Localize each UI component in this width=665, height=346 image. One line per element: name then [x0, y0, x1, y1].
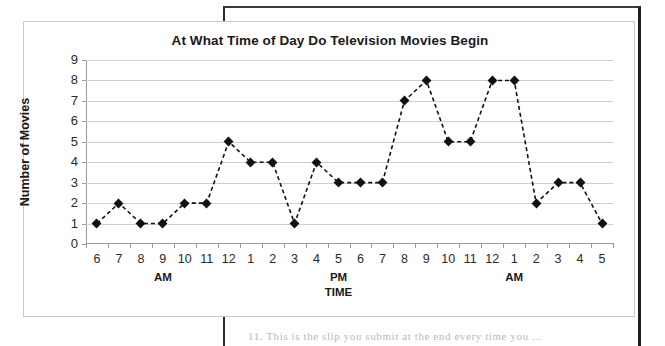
y-axis-tick-label: 5	[58, 135, 78, 148]
x-axis-title: TIME	[309, 286, 369, 298]
data-point-marker	[421, 75, 431, 85]
y-axis-tick-label: 1	[58, 217, 78, 230]
series-markers	[86, 60, 613, 244]
y-axis-tick-label: 0	[58, 237, 78, 250]
y-axis-tick-label: 6	[58, 114, 78, 127]
data-point-marker	[224, 137, 234, 147]
data-point-marker	[202, 198, 212, 208]
meridiem-label: AM	[494, 271, 534, 283]
data-point-marker	[356, 178, 366, 188]
data-point-marker	[487, 75, 497, 85]
y-axis-tick-label: 7	[58, 94, 78, 107]
data-point-marker	[92, 219, 102, 229]
data-point-marker	[531, 198, 541, 208]
data-point-marker	[597, 219, 607, 229]
y-axis-tick-label: 8	[58, 73, 78, 86]
data-point-marker	[334, 178, 344, 188]
chart-container: At What Time of Day Do Television Movies…	[23, 21, 635, 317]
data-point-marker	[509, 75, 519, 85]
data-point-marker	[377, 178, 387, 188]
meridiem-label: AM	[143, 271, 183, 283]
data-point-marker	[443, 137, 453, 147]
data-point-marker	[246, 157, 256, 167]
data-point-marker	[114, 198, 124, 208]
y-axis-tick-label: 2	[58, 196, 78, 209]
y-axis-title: Number of Movies	[18, 60, 34, 244]
data-point-marker	[268, 157, 278, 167]
x-axis-tick	[613, 243, 614, 248]
data-point-marker	[312, 157, 322, 167]
data-point-marker	[553, 178, 563, 188]
meridiem-label: PM	[319, 271, 359, 283]
y-axis-tick-label: 3	[58, 176, 78, 189]
data-point-marker	[136, 219, 146, 229]
data-point-marker	[575, 178, 585, 188]
x-axis-tick-label: 5	[589, 252, 615, 266]
document-text-fragment: 11. This is the slip you submit at the e…	[248, 330, 638, 342]
data-point-marker	[399, 96, 409, 106]
data-point-marker	[465, 137, 475, 147]
chart-title: At What Time of Day Do Television Movies…	[24, 33, 636, 48]
data-point-marker	[158, 219, 168, 229]
y-axis-tick-label: 4	[58, 155, 78, 168]
data-point-marker	[180, 198, 190, 208]
data-point-marker	[290, 219, 300, 229]
y-axis-tick-label: 9	[58, 53, 78, 66]
plot-area: 0123456789 67891011121234567891011121234…	[86, 60, 613, 244]
